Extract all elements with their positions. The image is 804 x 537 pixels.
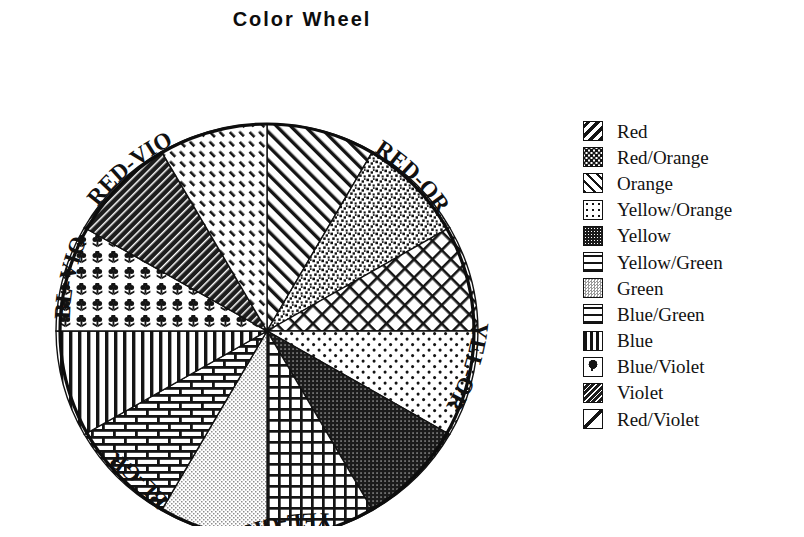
legend-item[interactable]: Red [583,118,798,144]
legend-label: Violet [617,383,663,402]
legend-swatch-green [583,278,603,298]
legend-label: Orange [617,174,673,193]
legend-label: Yellow/Orange [617,200,732,219]
legend-item[interactable]: Red/Orange [583,144,798,170]
legend-swatch-red [583,121,603,141]
legend-label: Blue [617,331,653,350]
legend-item[interactable]: Blue [583,328,798,354]
legend-item[interactable]: Orange [583,170,798,196]
legend-item[interactable]: Yellow/Green [583,249,798,275]
legend-swatch-blue [583,331,603,351]
legend-swatch-blue-green [583,304,603,324]
legend-swatch-red-orange [583,147,603,167]
legend-label: Yellow [617,226,671,245]
legend-swatch-blue-violet [583,357,603,377]
legend-swatch-yellow [583,226,603,246]
legend-label: Blue/Violet [617,357,705,376]
legend-swatch-red-violet [583,409,603,429]
legend-swatch-orange [583,173,603,193]
pie-chart-svg: RED-VIO RED-OR YEL-OR YEL-GR BL-GR BL-VI… [0,46,560,526]
legend-label: Red/Violet [617,410,699,429]
legend-item[interactable]: Blue/Violet [583,354,798,380]
legend-label: Red [617,122,648,141]
color-wheel-chart: RED-VIO RED-OR YEL-OR YEL-GR BL-GR BL-VI… [0,46,560,526]
legend-item[interactable]: Yellow/Orange [583,197,798,223]
legend-item[interactable]: Red/Violet [583,406,798,432]
legend-swatch-yellow-green [583,252,603,272]
legend-label: Red/Orange [617,148,709,167]
legend-label: Yellow/Green [617,253,723,272]
chart-legend: Red Red/Orange Orange Yellow/Orange Yell… [583,118,798,432]
legend-item[interactable]: Green [583,275,798,301]
legend-item[interactable]: Violet [583,380,798,406]
page-title: Color Wheel [0,8,604,31]
legend-swatch-yellow-orange [583,200,603,220]
legend-item[interactable]: Blue/Green [583,301,798,327]
legend-swatch-violet [583,383,603,403]
legend-label: Green [617,279,663,298]
legend-item[interactable]: Yellow [583,223,798,249]
legend-label: Blue/Green [617,305,705,324]
